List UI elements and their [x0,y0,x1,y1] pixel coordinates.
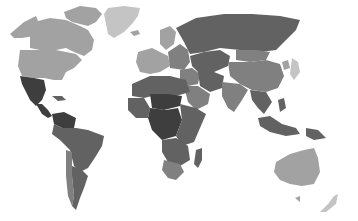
world-map [0,0,358,221]
